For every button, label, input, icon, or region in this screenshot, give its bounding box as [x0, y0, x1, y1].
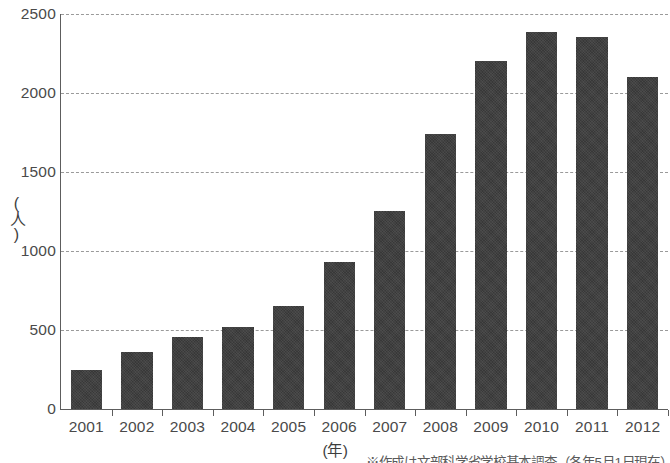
x-axis-tick	[668, 410, 669, 416]
bar	[121, 352, 152, 409]
x-axis-tick	[112, 410, 113, 416]
y-axis-tick-label: 1500	[4, 164, 56, 180]
x-axis-tick	[415, 410, 416, 416]
x-axis-tick-label: 2002	[112, 418, 163, 435]
x-axis-tick	[162, 410, 163, 416]
x-axis-tick	[263, 410, 264, 416]
x-axis-tick-label: 2006	[314, 418, 365, 435]
x-axis-tick	[516, 410, 517, 416]
x-axis-tick	[617, 410, 618, 416]
source-note: ※作成は文部科学省学校基本調査（各年5月1日現在）	[366, 455, 670, 463]
x-axis-tick-label: 2005	[263, 418, 314, 435]
x-axis-tick-label: 2003	[162, 418, 213, 435]
x-axis-tick-label: 2001	[61, 418, 112, 435]
x-axis-tick	[314, 410, 315, 416]
y-axis-tick-label: 1000	[4, 243, 56, 259]
x-axis-tick-label: 2012	[617, 418, 668, 435]
x-axis-tick-label: 2008	[415, 418, 466, 435]
y-axis-tick-labels: 05001000150020002500	[0, 0, 56, 463]
x-axis-tick	[466, 410, 467, 416]
bar	[425, 134, 456, 409]
x-axis-tick-label: 2011	[567, 418, 618, 435]
bar	[374, 211, 405, 409]
bar	[172, 337, 203, 409]
bar	[324, 262, 355, 409]
y-axis-tick-label: 0	[4, 401, 56, 417]
bar	[526, 32, 557, 409]
x-axis-tick	[213, 410, 214, 416]
x-axis-tick-label: 2009	[466, 418, 517, 435]
bar	[71, 370, 102, 410]
bar	[576, 37, 607, 409]
x-axis-tick-label: 2007	[365, 418, 416, 435]
bar	[222, 327, 253, 409]
x-axis-tick	[365, 410, 366, 416]
x-axis-tick-label: 2010	[516, 418, 567, 435]
x-axis-tick	[567, 410, 568, 416]
gridline	[61, 14, 668, 15]
x-axis-tick-label: 2004	[213, 418, 264, 435]
bar-chart-figure: (人) 05001000150020002500 (年) ※作成は文部科学省学校…	[0, 0, 670, 463]
y-axis-line	[60, 14, 61, 410]
plot-area	[61, 14, 668, 409]
bar	[627, 77, 658, 409]
y-axis-tick-label: 2000	[4, 85, 56, 101]
bar	[475, 61, 506, 409]
y-axis-tick-label: 500	[4, 322, 56, 338]
y-axis-tick-label: 2500	[4, 6, 56, 22]
bar	[273, 306, 304, 409]
